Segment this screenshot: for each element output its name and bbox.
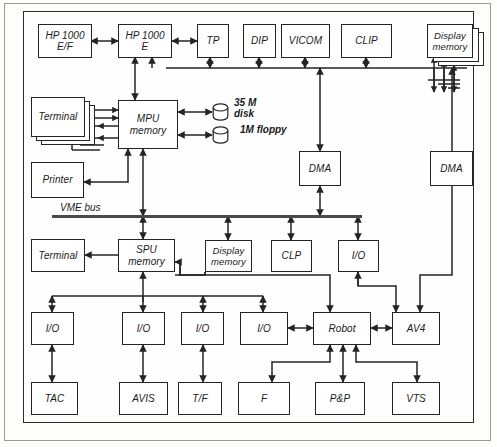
box-av4[interactable]: AV4 (392, 312, 440, 345)
box-tf-label: T/F (192, 393, 207, 405)
box-av4-label: AV4 (407, 323, 426, 335)
box-clp[interactable]: CLP (271, 240, 312, 272)
box-tac[interactable]: TAC (31, 382, 78, 415)
box-terminal-spu[interactable]: Terminal (31, 239, 85, 272)
box-io-tac-label: I/O (46, 323, 60, 335)
box-vicom[interactable]: VICOM (281, 24, 330, 58)
box-dma-right[interactable]: DMA (430, 151, 473, 186)
vme-bus-line (52, 215, 362, 218)
box-io-spu-label: I/O (352, 250, 366, 262)
box-vicom-label: VICOM (289, 35, 322, 47)
box-hp1000-e-label: HP 1000 E (125, 30, 164, 53)
connector-wires (0, 0, 497, 447)
box-vts[interactable]: VTS (392, 382, 440, 415)
box-dma-left-label: DMA (309, 163, 332, 175)
box-avis-label: AVIS (132, 393, 155, 405)
box-dma-right-label: DMA (440, 163, 463, 175)
box-robot[interactable]: Robot (313, 312, 371, 345)
box-mpu-memory[interactable]: MPU memory (118, 100, 178, 149)
box-tp-label: TP (207, 35, 220, 47)
box-mpu-memory-label: MPU memory (130, 113, 167, 136)
box-hp1000-ef[interactable]: HP 1000 E/F (38, 24, 92, 58)
box-tac-label: TAC (45, 393, 65, 405)
box-printer-label: Printer (42, 174, 72, 186)
box-f[interactable]: F (238, 382, 290, 415)
box-io-avis-label: I/O (137, 323, 151, 335)
box-hp1000-e[interactable]: HP 1000 E (118, 24, 172, 58)
box-dip[interactable]: DIP (243, 24, 276, 58)
box-io-f[interactable]: I/O (240, 312, 288, 345)
disk-floppy-label: 1M floppy (240, 124, 287, 135)
box-printer[interactable]: Printer (31, 162, 84, 198)
box-tf[interactable]: T/F (178, 382, 222, 415)
box-io-avis[interactable]: I/O (122, 312, 165, 345)
box-display-memory-top-label: Display memory (433, 30, 468, 53)
diagram-canvas: VME bus HP 1000 E/F HP 1000 E TP DIP VIC… (0, 0, 497, 447)
box-terminal-top[interactable]: Terminal (31, 97, 85, 137)
disk-35m-icon (212, 103, 229, 122)
box-dma-left[interactable]: DMA (299, 151, 341, 186)
box-tp[interactable]: TP (197, 24, 229, 58)
box-terminal-top-label: Terminal (39, 111, 78, 123)
vme-bus-label: VME bus (60, 202, 101, 213)
box-clip-label: CLIP (355, 35, 378, 47)
box-io-tac[interactable]: I/O (31, 312, 74, 345)
disk-35m-label: 35 M disk (234, 97, 256, 119)
box-display-memory-spu[interactable]: Display memory (205, 240, 252, 272)
box-display-memory-spu-label: Display memory (211, 245, 246, 268)
box-vts-label: VTS (406, 393, 426, 405)
box-avis[interactable]: AVIS (119, 382, 168, 415)
box-pp[interactable]: P&P (315, 382, 365, 415)
box-clip[interactable]: CLIP (341, 24, 392, 58)
box-clp-label: CLP (282, 250, 302, 262)
box-terminal-spu-label: Terminal (39, 250, 78, 262)
box-pp-label: P&P (330, 393, 350, 405)
box-io-tf-label: I/O (196, 323, 210, 335)
box-spu-memory-label: SPU memory (128, 244, 165, 267)
box-robot-label: Robot (328, 323, 355, 335)
box-spu-memory[interactable]: SPU memory (118, 239, 175, 272)
box-dip-label: DIP (251, 35, 268, 47)
box-f-label: F (261, 393, 267, 405)
box-hp1000-ef-label: HP 1000 E/F (45, 30, 84, 53)
box-io-f-label: I/O (257, 323, 271, 335)
disk-floppy-icon (212, 126, 229, 145)
box-io-spu[interactable]: I/O (338, 240, 379, 272)
box-io-tf[interactable]: I/O (181, 312, 224, 345)
box-display-memory-top[interactable]: Display memory (427, 24, 473, 58)
